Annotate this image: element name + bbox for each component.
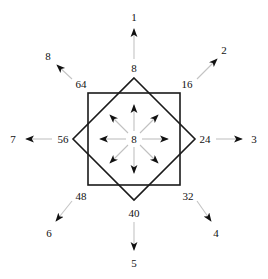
outer-arrow-4 — [197, 201, 211, 221]
ring-label-right: 24 — [200, 134, 211, 145]
inner-arrow-down-right — [140, 145, 158, 163]
ring-label-left: 56 — [58, 134, 69, 145]
ring-label-bottom-left: 48 — [76, 191, 87, 202]
outer-label-2: 2 — [221, 45, 227, 56]
inner-arrow-up-right — [140, 115, 158, 133]
outer-label-8: 8 — [45, 51, 51, 62]
outer-arrow-8 — [57, 65, 72, 79]
inner-arrow-down-left — [110, 145, 128, 163]
outer-label-1: 1 — [131, 12, 137, 23]
outer-arrow-6 — [56, 201, 72, 221]
outer-label-5: 5 — [131, 258, 137, 269]
inner-arrow-up-left — [110, 115, 128, 133]
outer-label-6: 6 — [46, 228, 52, 239]
ring-label-top-right: 16 — [182, 79, 193, 90]
eight-direction-diagram: 8 8 16 24 32 40 48 56 64 1 2 3 4 5 6 7 8 — [0, 0, 268, 279]
center-value-label: 8 — [131, 134, 137, 145]
outer-label-3: 3 — [251, 134, 257, 145]
ring-label-bottom: 40 — [129, 208, 140, 219]
ring-label-bottom-right: 32 — [183, 191, 194, 202]
ring-label-top: 8 — [131, 63, 137, 74]
outer-arrow-2 — [197, 59, 217, 79]
outer-label-7: 7 — [10, 134, 16, 145]
ring-label-top-left: 64 — [76, 79, 87, 90]
outer-label-4: 4 — [213, 228, 219, 239]
